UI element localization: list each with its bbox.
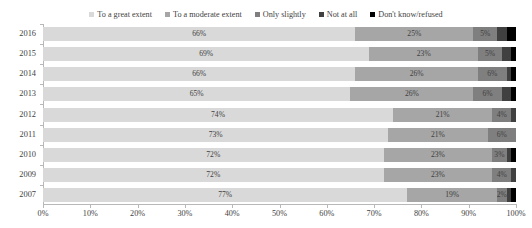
- bar-segment[interactable]: 66%: [43, 67, 355, 81]
- bar-segment-value-label: 66%: [192, 30, 206, 38]
- bar-segment[interactable]: [511, 148, 516, 162]
- legend-item[interactable]: Only slightly: [255, 10, 306, 19]
- bar-segment-value-label: 23%: [417, 50, 431, 58]
- legend-item[interactable]: To a moderate extent: [165, 10, 242, 19]
- x-axis-tick-label: 60%: [307, 209, 347, 218]
- bar-row[interactable]: 73%21%6%: [43, 128, 516, 142]
- legend-swatch-icon: [165, 12, 170, 17]
- bar-segment[interactable]: 6%: [488, 128, 516, 142]
- bar-segment[interactable]: [511, 67, 516, 81]
- bar-segment[interactable]: 5%: [473, 27, 497, 41]
- bar-segment[interactable]: [511, 108, 516, 122]
- bar-segment-value-label: 2%: [497, 191, 506, 199]
- bar-row[interactable]: 65%26%6%: [43, 87, 516, 101]
- legend-swatch-icon: [319, 12, 324, 17]
- bar-segment[interactable]: [507, 27, 516, 41]
- bar-segment[interactable]: 26%: [355, 67, 478, 81]
- bar-segment[interactable]: 73%: [43, 128, 388, 142]
- bar-segment[interactable]: 6%: [473, 87, 501, 101]
- bar-segment[interactable]: 21%: [388, 128, 487, 142]
- y-axis-category-label: 2012: [0, 110, 36, 119]
- bar-segment[interactable]: 66%: [43, 27, 355, 41]
- legend-item[interactable]: Not at all: [319, 10, 357, 19]
- x-axis-tick: [516, 205, 517, 208]
- bar-segment-value-label: 23%: [431, 151, 445, 159]
- bar-segment[interactable]: [502, 47, 511, 61]
- bar-segment[interactable]: 23%: [369, 47, 478, 61]
- bar-segment-value-label: 3%: [494, 151, 504, 159]
- legend-swatch-icon: [370, 12, 375, 17]
- bar-segment-value-label: 72%: [206, 151, 220, 159]
- bar-segment[interactable]: 23%: [384, 168, 493, 182]
- bar-segment[interactable]: 21%: [393, 108, 492, 122]
- bar-row[interactable]: 66%25%5%: [43, 27, 516, 41]
- bar-segment-value-label: 19%: [445, 191, 459, 199]
- legend-label: To a moderate extent: [173, 10, 242, 19]
- bar-segment[interactable]: [502, 87, 511, 101]
- bar-segment[interactable]: [511, 47, 516, 61]
- y-axis-tick: [40, 145, 43, 146]
- y-axis-category-label: 2014: [0, 69, 36, 78]
- bar-segment[interactable]: 3%: [492, 148, 506, 162]
- bar-segment-value-label: 65%: [190, 90, 204, 98]
- legend-label: Only slightly: [263, 10, 306, 19]
- y-axis-category-label: 2011: [0, 130, 36, 139]
- legend-swatch-icon: [255, 12, 260, 17]
- bar-segment[interactable]: [511, 168, 516, 182]
- y-axis-category-label: 2015: [0, 49, 36, 58]
- bar-segment-value-label: 4%: [497, 171, 507, 179]
- bar-segment[interactable]: 25%: [355, 27, 473, 41]
- x-axis-tick: [374, 205, 375, 208]
- bar-segment-value-label: 77%: [218, 191, 232, 199]
- bar-segment[interactable]: [511, 188, 516, 202]
- bar-segment[interactable]: 26%: [350, 87, 473, 101]
- x-axis-tick: [43, 205, 44, 208]
- legend-label: To a great extent: [97, 10, 152, 19]
- bar-segment[interactable]: 72%: [43, 148, 384, 162]
- bar-segment-value-label: 6%: [483, 90, 493, 98]
- bar-segment[interactable]: 19%: [407, 188, 497, 202]
- chart-title: [43, 0, 516, 1]
- x-axis-tick: [469, 205, 470, 208]
- legend-item[interactable]: To a great extent: [89, 10, 152, 19]
- bar-segment-value-label: 21%: [431, 131, 445, 139]
- bar-segment[interactable]: 4%: [492, 108, 511, 122]
- bar-segment[interactable]: 23%: [384, 148, 493, 162]
- bar-segment[interactable]: 69%: [43, 47, 369, 61]
- x-axis-tick: [138, 205, 139, 208]
- bar-segment-value-label: 5%: [480, 30, 490, 38]
- y-axis-tick: [40, 165, 43, 166]
- bar-segment-value-label: 69%: [199, 50, 213, 58]
- bar-segment[interactable]: 2%: [497, 188, 506, 202]
- y-axis-tick: [40, 64, 43, 65]
- bar-row[interactable]: 72%23%4%: [43, 168, 516, 182]
- legend-item[interactable]: Don't know/refused: [370, 10, 442, 19]
- bar-segment[interactable]: 77%: [43, 188, 407, 202]
- x-axis-tick-label: 10%: [70, 209, 110, 218]
- bar-row[interactable]: 77%19%2%: [43, 188, 516, 202]
- y-axis-tick: [40, 104, 43, 105]
- bar-row[interactable]: 69%23%5%: [43, 47, 516, 61]
- bar-segment-value-label: 72%: [206, 171, 220, 179]
- bar-row[interactable]: 66%26%6%: [43, 67, 516, 81]
- x-axis-tick-label: 40%: [212, 209, 252, 218]
- bar-segment[interactable]: 72%: [43, 168, 384, 182]
- x-axis-tick-label: 0%: [23, 209, 63, 218]
- plot-area: 66%25%5%69%23%5%66%26%6%65%26%6%74%21%4%…: [43, 24, 516, 205]
- bar-segment-value-label: 66%: [192, 70, 206, 78]
- bar-segment-value-label: 73%: [209, 131, 223, 139]
- y-axis-category-label: 2013: [0, 89, 36, 98]
- bar-segment[interactable]: 5%: [478, 47, 502, 61]
- bar-segment[interactable]: [511, 87, 516, 101]
- bar-segment[interactable]: [497, 27, 506, 41]
- bar-segment[interactable]: 74%: [43, 108, 393, 122]
- legend-label: Not at all: [327, 10, 357, 19]
- y-axis-tick: [40, 44, 43, 45]
- y-axis-category-label: 2010: [0, 150, 36, 159]
- bar-row[interactable]: 74%21%4%: [43, 108, 516, 122]
- bar-segment[interactable]: 65%: [43, 87, 350, 101]
- x-axis-tick: [421, 205, 422, 208]
- bar-segment[interactable]: 4%: [492, 168, 511, 182]
- bar-segment[interactable]: 6%: [478, 67, 506, 81]
- bar-row[interactable]: 72%23%3%: [43, 148, 516, 162]
